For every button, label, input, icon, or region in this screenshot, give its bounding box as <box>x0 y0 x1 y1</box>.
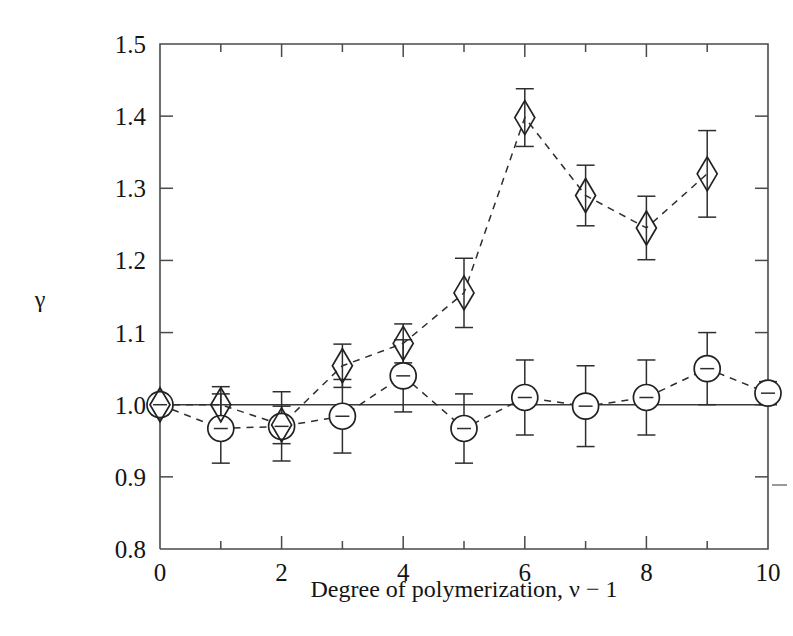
marker-diamond-x7 <box>576 179 596 213</box>
x-tick-label-2: 2 <box>275 559 288 586</box>
marker-diamond-x6 <box>515 101 535 135</box>
y-tick-label-1.4: 1.4 <box>115 103 147 130</box>
marker-diamond-x8 <box>636 211 656 245</box>
y-tick-label-1.1: 1.1 <box>115 320 146 347</box>
marker-diamond-x3 <box>332 349 352 383</box>
marker-diamond-x4 <box>393 326 413 360</box>
figure-container: 0246810 0.80.91.01.11.21.31.41.5 Degree … <box>0 0 793 636</box>
y-tick-label-0.8: 0.8 <box>115 536 146 563</box>
y-axis-label: γ <box>34 286 46 312</box>
connector-diamond-series <box>160 118 707 425</box>
chart-svg: 0246810 0.80.91.01.11.21.31.41.5 Degree … <box>0 0 793 636</box>
y-tick-label-1.0: 1.0 <box>115 392 146 419</box>
y-tick-label-group: 0.80.91.01.11.21.31.41.5 <box>115 31 147 563</box>
x-axis-label: Degree of polymerization, ν − 1 <box>311 576 618 602</box>
x-tick-label-8: 8 <box>640 559 653 586</box>
y-tick-label-1.5: 1.5 <box>115 31 146 58</box>
x-tick-label-0: 0 <box>154 559 167 586</box>
marker-diamond-x5 <box>454 276 474 310</box>
x-tick-label-10: 10 <box>756 559 781 586</box>
marker-diamond-x9 <box>697 157 717 191</box>
y-tick-label-0.9: 0.9 <box>115 464 146 491</box>
y-tick-label-1.3: 1.3 <box>115 175 146 202</box>
y-tick-label-1.2: 1.2 <box>115 247 146 274</box>
